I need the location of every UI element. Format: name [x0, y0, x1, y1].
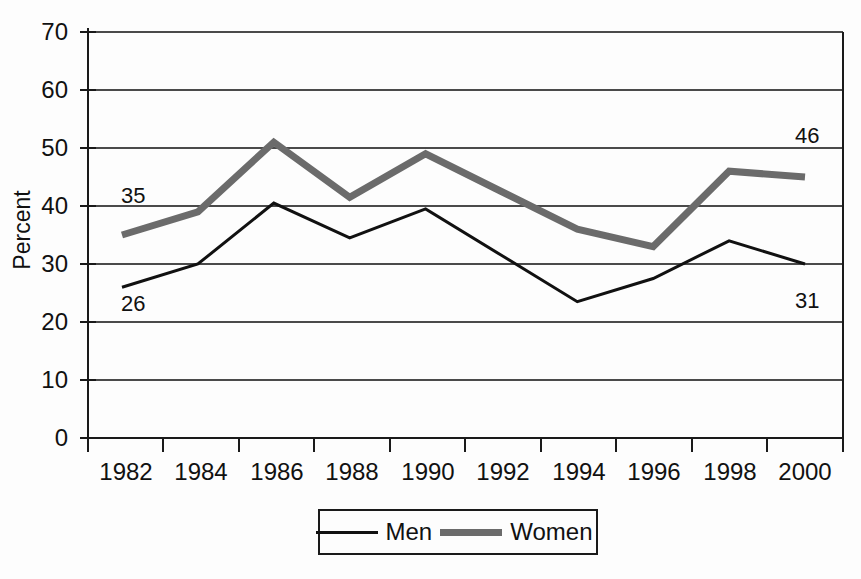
- legend-line-women-icon: [440, 529, 502, 536]
- x-tick-label-1992: 1992: [463, 460, 543, 484]
- legend-item-men: Men: [316, 520, 441, 544]
- x-tick-label-1982: 1982: [86, 460, 166, 484]
- legend-label-men: Men: [384, 520, 441, 544]
- legend-label-women: Women: [508, 520, 600, 544]
- chart-page: Percent 70 60 50 40 30 20 10 0 1982 1984…: [0, 0, 861, 579]
- y-tick-label-10: 10: [16, 368, 68, 392]
- y-tick-label-30: 30: [16, 252, 68, 276]
- x-tick-label-1996: 1996: [614, 460, 694, 484]
- x-tick-label-1984: 1984: [161, 460, 241, 484]
- plot-canvas: [0, 0, 861, 579]
- y-tick-label-20: 20: [16, 310, 68, 334]
- data-label-men-2000: 31: [795, 290, 819, 312]
- legend-line-men-icon: [316, 531, 378, 534]
- y-tick-label-60: 60: [16, 78, 68, 102]
- data-label-women-1982: 35: [121, 185, 145, 207]
- y-tick-label-70: 70: [16, 20, 68, 44]
- y-tick-label-40: 40: [16, 194, 68, 218]
- x-tick-label-1988: 1988: [312, 460, 392, 484]
- data-label-women-2000: 46: [795, 125, 819, 147]
- legend-item-women: Women: [440, 520, 600, 544]
- x-tick-marks: [88, 438, 843, 452]
- x-tick-label-2000: 2000: [765, 460, 845, 484]
- x-tick-label-1994: 1994: [539, 460, 619, 484]
- series-line-men: [122, 203, 805, 302]
- data-label-men-1982: 26: [121, 293, 145, 315]
- chart-legend: Men Women: [318, 509, 598, 555]
- y-tick-label-50: 50: [16, 136, 68, 160]
- x-tick-label-1990: 1990: [388, 460, 468, 484]
- line-chart: Percent 70 60 50 40 30 20 10 0 1982 1984…: [0, 0, 861, 579]
- x-tick-label-1998: 1998: [690, 460, 770, 484]
- x-tick-label-1986: 1986: [237, 460, 317, 484]
- y-tick-label-0: 0: [16, 426, 68, 450]
